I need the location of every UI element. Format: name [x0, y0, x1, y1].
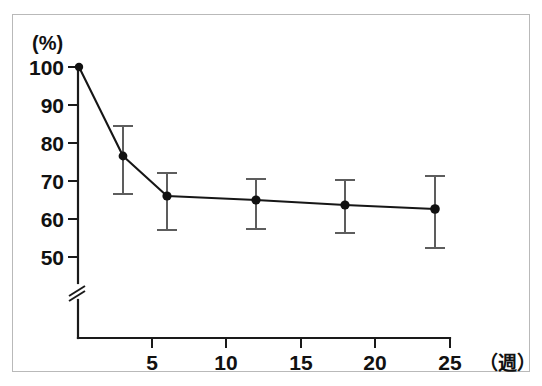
line-chart-plot: (%) 100 90 80 70 60 50 [0, 0, 542, 386]
data-point-week-12 [251, 195, 260, 204]
x-tick-label-5: 5 [146, 351, 158, 374]
y-tick-label-50: 50 [41, 246, 64, 269]
y-axis-ticks [68, 67, 78, 257]
y-tick-label-70: 70 [41, 170, 64, 193]
y-tick-label-60: 60 [41, 208, 64, 231]
y-tick-label-100: 100 [29, 56, 64, 79]
y-tick-label-90: 90 [41, 94, 64, 117]
data-point-week-0 [75, 63, 83, 71]
data-point-markers [75, 63, 440, 214]
y-axis-break-icon [69, 286, 85, 301]
x-tick-label-15: 15 [289, 351, 313, 374]
error-bars [113, 126, 445, 248]
error-bar-week-6 [157, 173, 177, 230]
data-point-week-6 [162, 191, 171, 200]
data-point-week-3 [119, 152, 128, 161]
y-axis-unit-label: (%) [32, 32, 63, 54]
x-axis-unit-label: （週） [479, 352, 536, 374]
x-tick-label-10: 10 [214, 351, 237, 374]
x-axis-ticks [152, 338, 450, 348]
x-tick-label-25: 25 [438, 351, 462, 374]
x-tick-label-20: 20 [363, 351, 386, 374]
chart-figure: (%) 100 90 80 70 60 50 [0, 0, 542, 386]
y-tick-label-80: 80 [41, 132, 64, 155]
data-point-week-24 [430, 204, 440, 214]
data-point-week-18 [340, 200, 349, 209]
